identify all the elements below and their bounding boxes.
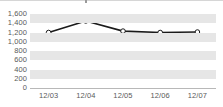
y-tick-label: 400 (14, 66, 27, 74)
y-axis: 1,6001,4001,2001,0008006004002000 (0, 14, 27, 88)
y-tick-label: 1,600 (8, 10, 27, 18)
grid-band (30, 51, 216, 60)
top-border-tick (85, 0, 87, 3)
x-tick-label: 12/05 (113, 91, 132, 100)
y-tick-label: 800 (14, 47, 27, 55)
y-tick-label: 200 (14, 75, 27, 83)
grid-band (30, 33, 216, 42)
y-tick-label: 1,000 (8, 38, 27, 46)
plot-area (30, 14, 216, 88)
y-tick-label: 1,200 (8, 29, 27, 37)
x-axis: 12/0312/0412/0512/0612/07 (30, 91, 216, 105)
x-tick-label: 12/04 (76, 91, 95, 100)
y-tick-label: 0 (23, 84, 27, 92)
y-tick-label: 600 (14, 56, 27, 64)
x-axis-line (30, 88, 216, 89)
grid-band (30, 70, 216, 79)
grid-band (30, 14, 216, 23)
x-tick-label: 12/06 (151, 91, 170, 100)
top-border-rule (0, 0, 223, 1)
line-chart-widget: 1,6001,4001,2001,0008006004002000 12/031… (0, 0, 223, 107)
x-tick-label: 12/03 (39, 91, 58, 100)
x-tick-label: 12/07 (188, 91, 207, 100)
y-tick-label: 1,400 (8, 19, 27, 27)
